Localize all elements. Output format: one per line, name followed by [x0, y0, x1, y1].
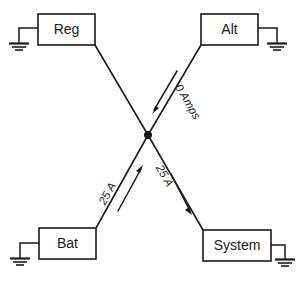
junction-dot — [144, 131, 151, 138]
alt-flow-label: 0 Amps — [173, 82, 203, 122]
diagram-canvas: Reg Alt Bat — [0, 0, 300, 284]
bat-flow-arrow-head — [136, 165, 143, 173]
system-ground-icon — [275, 260, 295, 267]
line-reg-to-junction — [95, 45, 148, 135]
flow-junction-to-system: 25 A — [153, 162, 192, 215]
system-flow-label: 25 A — [153, 162, 176, 189]
circuit-diagram: Reg Alt Bat — [0, 0, 300, 284]
bat-ground-icon — [10, 259, 30, 266]
alt-ground-wire — [258, 28, 277, 43]
alt-flow-arrow-head — [152, 106, 159, 114]
bat-ground-wire — [20, 243, 39, 258]
system-ground-wire — [271, 245, 285, 259]
bat-flow-arrow-shaft — [118, 169, 141, 211]
node-bat[interactable]: Bat — [10, 228, 96, 265]
flow-bat-to-junction: 25 A — [96, 165, 143, 211]
bat-label: Bat — [57, 235, 78, 251]
reg-ground-wire — [19, 28, 38, 43]
system-label: System — [214, 237, 261, 253]
node-reg[interactable]: Reg — [9, 14, 95, 50]
node-system[interactable]: System — [203, 230, 295, 266]
alt-label: Alt — [221, 21, 237, 37]
line-bat-to-junction — [96, 135, 148, 228]
alt-ground-icon — [267, 44, 287, 51]
reg-ground-icon — [9, 44, 29, 51]
reg-label: Reg — [54, 21, 80, 37]
node-alt[interactable]: Alt — [201, 14, 287, 50]
